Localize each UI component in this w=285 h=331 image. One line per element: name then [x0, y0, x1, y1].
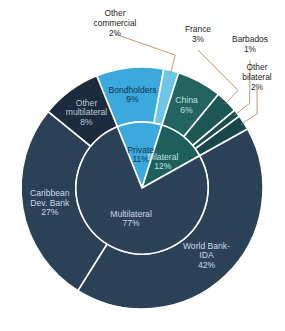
- callout-label: France 3%: [176, 24, 220, 44]
- leader-line: [241, 88, 257, 124]
- callout-label: Barbados 1%: [222, 34, 278, 54]
- callout-label: Other bilateral 2%: [232, 62, 282, 92]
- nested-pie-chart: Bondholders9%China6%World Bank-IDA42%Car…: [0, 0, 285, 331]
- callout-label: Other commercial 2%: [82, 8, 148, 38]
- inner-ring: [76, 122, 208, 254]
